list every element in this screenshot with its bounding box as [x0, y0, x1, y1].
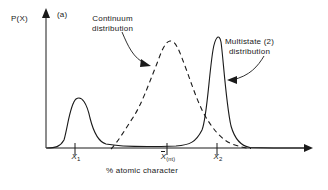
- tick-label-xnt-base: X: [161, 152, 167, 161]
- tick-label-x1-sub: 1: [77, 156, 81, 162]
- y-axis-arrowhead: [42, 8, 50, 18]
- figure-panel: P(X) (a) Continuum distribution Multista…: [0, 0, 328, 190]
- annotation-continuum-line1: Continuum: [92, 14, 133, 23]
- tick-label-xnt-sub: (nt): [166, 156, 175, 162]
- tick-label-x2: X2: [208, 152, 228, 162]
- leader-line-continuum: [122, 32, 146, 64]
- leader-arrowhead-continuum: [140, 59, 151, 67]
- tick-label-xnt: X(nt): [151, 152, 185, 162]
- x-axis-arrowhead: [304, 144, 313, 152]
- tick-label-x1: X1: [66, 152, 86, 162]
- annotation-continuum-line2: distribution: [92, 24, 133, 33]
- annotation-multistate-line2: distribution: [229, 47, 270, 56]
- annotation-continuum: Continuum distribution: [92, 14, 133, 34]
- annotation-multistate-line1: Multistate (2): [225, 37, 274, 46]
- y-axis-label: P(X): [11, 14, 28, 23]
- annotation-multistate: Multistate (2) distribution: [225, 37, 274, 57]
- leader-arrowhead-multistate: [227, 76, 237, 84]
- tick-label-x2-sub: 2: [219, 156, 223, 162]
- curve-continuum-distribution: [111, 41, 251, 149]
- panel-label: (a): [57, 10, 67, 19]
- x-axis-label: % atomic character: [106, 166, 178, 175]
